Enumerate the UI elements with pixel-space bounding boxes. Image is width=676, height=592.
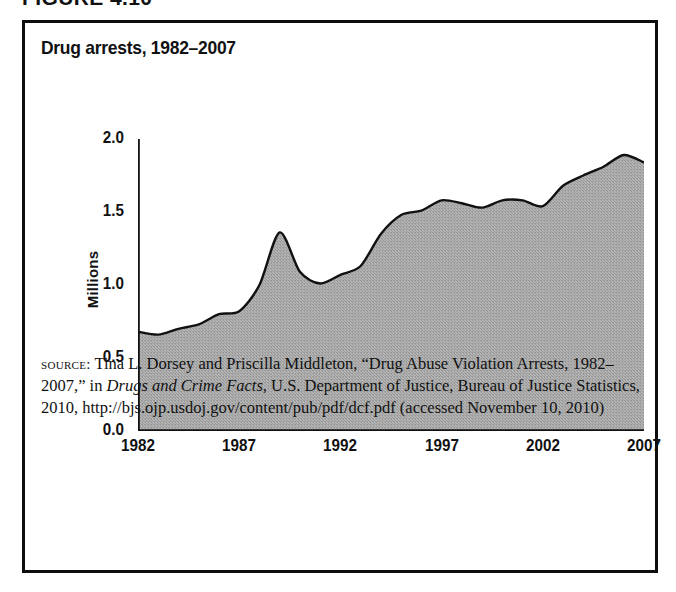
figure-box: Drug arrests, 1982–2007 Millions 0.00.51… — [22, 20, 658, 573]
x-tick-label: 2002 — [510, 437, 577, 455]
source-publication-title: Drugs and Crime Facts — [107, 376, 263, 395]
y-tick-label: 1.0 — [84, 275, 124, 293]
y-tick-label: 1.5 — [84, 202, 124, 220]
x-tick-label: 1997 — [408, 437, 475, 455]
figure-title: Drug arrests, 1982–2007 — [41, 37, 236, 59]
figure-number-heading: FIGURE 4.10 — [22, 0, 322, 8]
source-note: source: Tina L. Dorsey and Priscilla Mid… — [41, 353, 641, 419]
x-tick-label: 2007 — [611, 437, 676, 455]
source-label: source: — [41, 356, 91, 372]
x-tick-label: 1992 — [307, 437, 374, 455]
x-tick-label: 1982 — [105, 437, 172, 455]
y-tick-label: 2.0 — [84, 129, 124, 147]
x-tick-label: 1987 — [206, 437, 273, 455]
